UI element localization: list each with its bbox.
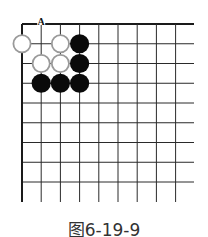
white-stone — [13, 35, 30, 52]
figure-caption: 图6-19-9 — [0, 216, 208, 237]
white-stone — [52, 35, 69, 52]
go-board: A — [0, 0, 208, 210]
black-stone — [70, 34, 89, 53]
white-stone — [33, 55, 50, 72]
black-stone — [51, 74, 70, 93]
black-stone — [32, 74, 51, 93]
board-grid — [22, 24, 194, 202]
labels-layer: A — [37, 15, 45, 27]
point-label-a: A — [38, 16, 46, 27]
black-stone — [70, 54, 89, 73]
white-stone — [52, 55, 69, 72]
black-stone — [70, 74, 89, 93]
